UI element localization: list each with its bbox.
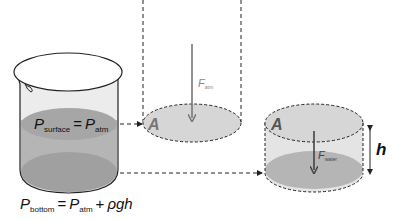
bottom-pressure-label: Pbottom=Patm+ρgh bbox=[20, 195, 133, 214]
atm-force-label: Fatm bbox=[198, 77, 213, 90]
water-area-label: A bbox=[270, 116, 283, 133]
water-bottom bbox=[21, 152, 117, 192]
beaker-rim bbox=[14, 53, 122, 91]
height-label: h bbox=[376, 140, 386, 159]
beaker bbox=[14, 53, 122, 193]
hydrostatic-pressure-diagram: Psurface=Patm Pbottom=Patm+ρgh A Fatm A … bbox=[0, 0, 395, 220]
atm-area-label: A bbox=[147, 116, 160, 133]
